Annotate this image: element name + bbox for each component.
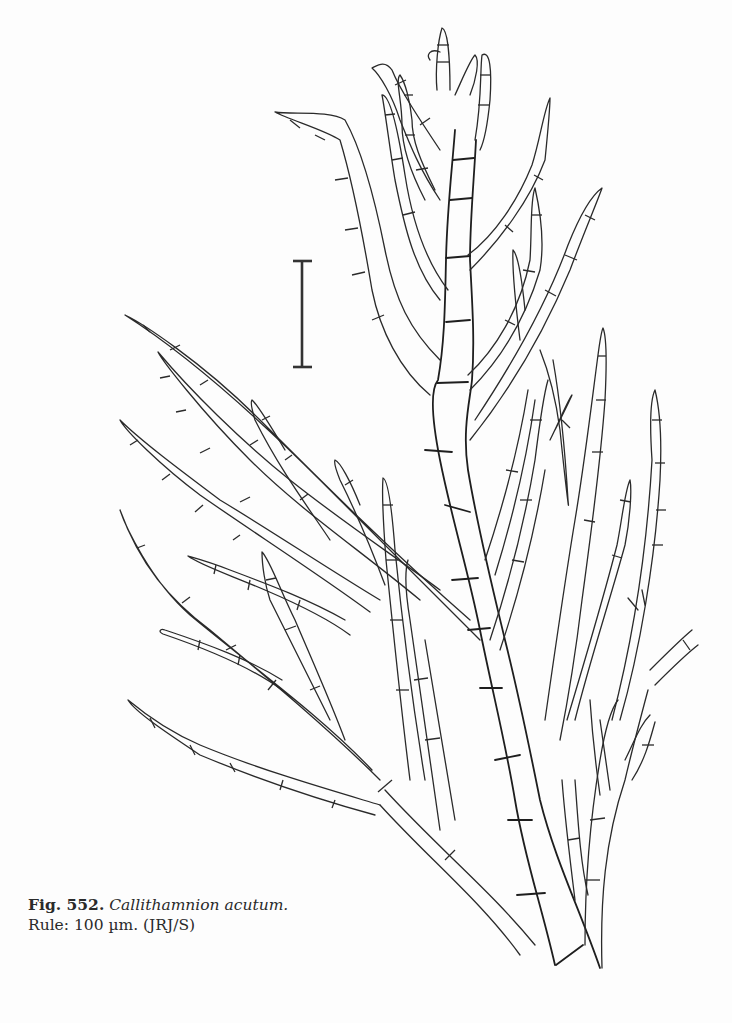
branch-middle xyxy=(251,380,548,830)
figure-number: Fig. 552. xyxy=(28,895,104,914)
figure-illustration xyxy=(0,0,732,1023)
alga-drawing xyxy=(0,0,732,1023)
figure-caption: Fig. 552. Callithamnion acutum. Rule: 10… xyxy=(28,895,288,935)
book-page: Fig. 552. Callithamnion acutum. Rule: 10… xyxy=(0,0,732,1023)
branch-lower-right xyxy=(562,690,655,968)
caption-line-2: Rule: 100 µm. (JRJ/S) xyxy=(28,915,288,935)
branch-right-side xyxy=(540,328,698,740)
species-name: Callithamnion acutum. xyxy=(109,896,288,914)
branch-left-fan xyxy=(120,315,535,955)
caption-line-1: Fig. 552. Callithamnion acutum. xyxy=(28,895,288,915)
branch-upper-right xyxy=(468,98,602,440)
scale-bar xyxy=(293,261,312,367)
